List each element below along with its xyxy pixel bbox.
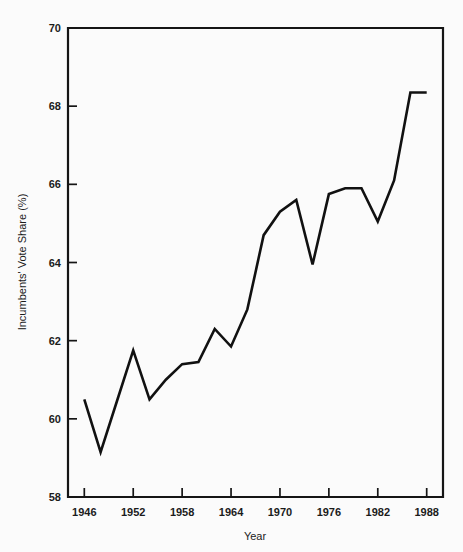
- y-tick-labels: 58606264666870: [49, 22, 62, 503]
- y-tick-label: 70: [49, 22, 61, 34]
- y-tick-label: 64: [49, 257, 62, 269]
- x-tick-label: 1952: [121, 506, 145, 518]
- plot-frame: [68, 28, 443, 497]
- x-tick-labels: 19461952195819641970197619821988: [72, 506, 439, 518]
- x-tick-label: 1976: [317, 506, 341, 518]
- line-chart: 58606264666870 1946195219581964197019761…: [0, 0, 463, 552]
- data-series-line: [84, 92, 426, 452]
- x-tick-label: 1982: [366, 506, 390, 518]
- y-tick-label: 58: [49, 491, 61, 503]
- y-tick-label: 66: [49, 178, 61, 190]
- x-tick-label: 1970: [268, 506, 292, 518]
- y-tick-label: 60: [49, 413, 61, 425]
- y-tick-label: 68: [49, 100, 61, 112]
- y-axis-ticks: [68, 28, 77, 497]
- x-tick-label: 1958: [170, 506, 194, 518]
- x-tick-label: 1988: [414, 506, 438, 518]
- x-axis-ticks: [84, 488, 426, 497]
- axis-border: [68, 28, 443, 497]
- x-axis-title: Year: [244, 530, 267, 542]
- y-axis-title: Incumbents' Vote Share (%): [16, 194, 28, 331]
- y-tick-label: 62: [49, 335, 61, 347]
- figure-container: 58606264666870 1946195219581964197019761…: [0, 0, 463, 552]
- x-tick-label: 1964: [219, 506, 244, 518]
- x-tick-label: 1946: [72, 506, 96, 518]
